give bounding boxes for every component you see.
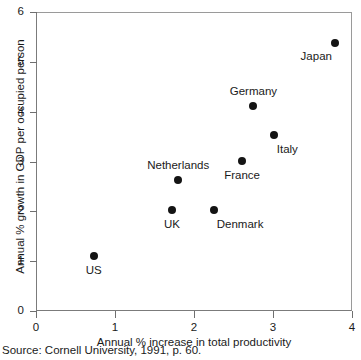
x-axis-tick [115,311,116,318]
y-axis-title: Annual % growth in GDP per occupied pers… [14,4,27,310]
x-axis-tick [194,311,195,318]
y-axis-tick [30,261,37,262]
y-axis-tick [30,211,37,212]
y-axis-tick [30,12,37,13]
y-axis-tick [30,62,37,63]
data-point [90,252,98,260]
data-point [249,102,257,110]
x-axis-tick [36,311,37,318]
x-axis-tick [352,311,353,318]
source-caption: Source: Cornell University, 1991, p. 60. [2,344,201,357]
x-axis-tick-label: 4 [340,321,361,333]
data-point [331,39,339,47]
x-axis-tick-label: 2 [182,321,206,333]
data-point-label: UK [164,218,180,231]
x-axis-tick-label: 0 [24,321,48,333]
x-axis-tick [273,311,274,318]
x-axis-tick-label: 1 [103,321,127,333]
data-point-label: Japan [301,50,332,63]
scatter-chart-figure: 0123456 01234 Annual % growth in GDP per… [0,0,361,360]
data-point-label: France [224,169,260,182]
data-point-label: Italy [277,143,298,156]
y-axis-tick [30,112,37,113]
data-point [270,131,278,139]
y-axis-tick [30,162,37,163]
x-axis-tick-label: 3 [261,321,285,333]
data-point-label: US [86,264,102,277]
data-point-label: Denmark [217,218,264,231]
data-point-label: Netherlands [147,159,209,172]
data-point [238,157,246,165]
data-point-label: Germany [230,85,277,98]
